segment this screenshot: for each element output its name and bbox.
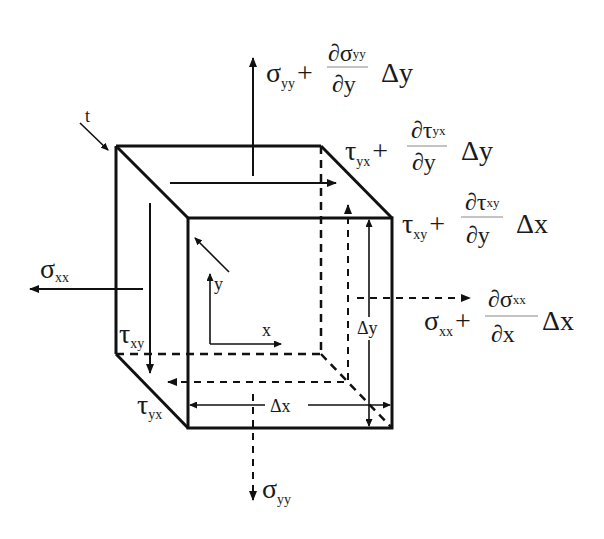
svg-text:∂σyy: ∂σyy [328, 40, 366, 66]
svg-text:∂y: ∂y [412, 149, 436, 175]
label-thickness: t [85, 106, 90, 126]
label-sigma-xx-right: σxx+ ∂σxx ∂x Δx [424, 286, 574, 347]
label-tau-yx-bottom: τyx [137, 389, 162, 422]
svg-text:Δy: Δy [381, 57, 413, 88]
svg-text:∂y: ∂y [332, 71, 356, 97]
svg-text:τxy+: τxy+ [402, 208, 445, 242]
svg-text:σyy+: σyy+ [266, 57, 313, 91]
svg-text:∂σxx: ∂σxx [488, 286, 526, 312]
svg-text:Δx: Δx [516, 208, 548, 239]
svg-text:τyx+: τyx+ [345, 135, 388, 169]
label-sigma-yy-top: σyy+ ∂σyy ∂y Δy [266, 40, 413, 97]
label-sigma-yy-bottom: σyy [262, 473, 291, 507]
label-tau-xy-left: τxy [119, 318, 144, 351]
label-axis-y: y [214, 274, 223, 294]
label-dim-x: Δx [270, 396, 291, 416]
svg-text:Δx: Δx [542, 305, 574, 336]
svg-text:∂τxy: ∂τxy [465, 189, 500, 215]
label-sigma-xx-left: σxx [40, 253, 69, 285]
stress-element-diagram: σyy+ ∂σyy ∂y Δy τyx+ ∂τyx ∂y Δy τxy+ ∂τx… [0, 0, 604, 539]
svg-text:∂x: ∂x [491, 321, 515, 347]
arrow-thickness [80, 123, 108, 150]
svg-text:∂y: ∂y [466, 222, 490, 248]
svg-text:∂τyx: ∂τyx [411, 117, 446, 143]
svg-text:σxx+: σxx+ [424, 305, 471, 339]
label-axis-x: x [262, 320, 271, 340]
arrow-depth-normal [195, 238, 229, 272]
label-tau-xy-right: τxy+ ∂τxy ∂y Δx [402, 189, 548, 248]
stress-arrows [30, 58, 470, 500]
label-tau-yx-top: τyx+ ∂τyx ∂y Δy [345, 117, 493, 175]
label-dim-y: Δy [357, 318, 378, 338]
svg-text:Δy: Δy [461, 135, 493, 166]
